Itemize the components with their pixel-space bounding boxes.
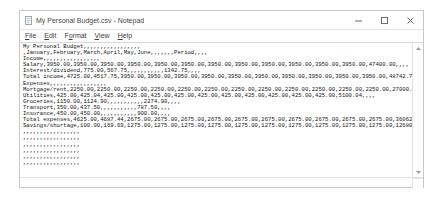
minimize-icon[interactable]: [345, 11, 371, 29]
editor-region: My Personal Budget,,,,,,,,,,,,,,,,,,Janu…: [20, 43, 423, 177]
menu-item-help[interactable]: Help: [118, 32, 132, 40]
maximize-icon[interactable]: [371, 11, 397, 29]
title-bar[interactable]: My Personal Budget.csv - Notepad: [20, 11, 423, 30]
window-title: My Personal Budget.csv - Notepad: [36, 16, 144, 25]
close-icon[interactable]: [397, 11, 423, 29]
vertical-scrollbar-track[interactable]: [413, 53, 423, 167]
screen: My Personal Budget.csv - Notepad: [0, 0, 442, 206]
scrollbar-corner: [412, 178, 423, 188]
vertical-scrollbar[interactable]: [412, 43, 423, 177]
notepad-icon: [24, 16, 33, 25]
text-line: ,,,,,,,,,,,,,,,,,: [23, 160, 412, 166]
horizontal-scrollbar[interactable]: [20, 177, 423, 187]
window-controls: [345, 11, 423, 29]
menu-item-file[interactable]: File: [25, 32, 36, 40]
menu-help-rest: elp: [123, 32, 132, 39]
title-bar-left: My Personal Budget.csv - Notepad: [20, 16, 345, 25]
scroll-down-arrow-icon[interactable]: [413, 167, 424, 177]
menu-item-edit[interactable]: Edit: [44, 32, 56, 40]
notepad-window: My Personal Budget.csv - Notepad: [19, 10, 424, 188]
menu-bar: File Edit Format View Help: [20, 30, 423, 43]
horizontal-scrollbar-track[interactable]: [20, 178, 412, 187]
text-editor[interactable]: My Personal Budget,,,,,,,,,,,,,,,,,,Janu…: [20, 43, 412, 177]
text-line: Savings/shortage,100.00,169.69,1275.00,1…: [23, 123, 412, 129]
menu-edit-rest: dit: [49, 32, 56, 39]
menu-format-rest: rmat: [73, 32, 87, 39]
menu-item-format[interactable]: Format: [64, 32, 86, 40]
scroll-up-arrow-icon[interactable]: [413, 43, 424, 53]
menu-view-rest: iew: [99, 32, 110, 39]
menu-item-view[interactable]: View: [95, 32, 110, 40]
menu-file-rest: ile: [29, 32, 36, 39]
